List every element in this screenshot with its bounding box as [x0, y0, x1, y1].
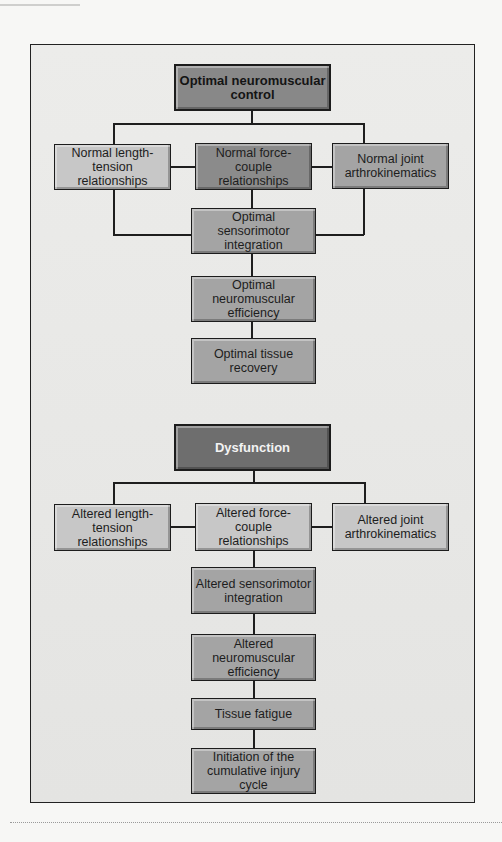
node-altered-joint-arthrokinematics: Altered joint arthrokinematics: [332, 503, 449, 551]
node-label: Altered joint arthrokinematics: [333, 513, 448, 541]
node-optimal-neuromuscular-control: Optimal neuromuscular control: [174, 64, 331, 111]
node-optimal-tissue-recovery: Optimal tissue recovery: [191, 338, 316, 384]
node-label: Normal joint arthrokinematics: [333, 152, 448, 180]
connector: [113, 123, 115, 144]
node-label: Optimal neuromuscular efficiency: [192, 278, 315, 320]
connector: [113, 190, 115, 235]
connector: [113, 123, 364, 125]
node-label: Optimal sensorimotor integration: [192, 210, 315, 252]
connector: [312, 166, 332, 168]
connector: [253, 681, 255, 699]
node-optimal-neuromuscular-efficiency: Optimal neuromuscular efficiency: [191, 276, 316, 322]
connector: [253, 551, 255, 568]
node-altered-length-tension: Altered length-tension relationships: [54, 504, 171, 551]
node-label: Altered sensorimotor integration: [192, 577, 315, 605]
connector: [363, 189, 365, 235]
connector: [113, 482, 365, 484]
connector: [113, 234, 191, 236]
node-altered-sensorimotor-integration: Altered sensorimotor integration: [191, 567, 316, 614]
node-label: Altered length-tension relationships: [55, 507, 170, 549]
node-label: Optimal tissue recovery: [192, 347, 315, 375]
connector: [251, 190, 253, 208]
node-initiation-cumulative-injury-cycle: Initiation of the cumulative injury cycl…: [191, 748, 316, 794]
node-label: Normal force-couple relationships: [196, 146, 311, 188]
node-label: Altered force-couple relationships: [196, 506, 311, 548]
node-optimal-sensorimotor-integration: Optimal sensorimotor integration: [191, 208, 316, 254]
node-label: Initiation of the cumulative injury cycl…: [192, 750, 315, 792]
node-normal-force-couple: Normal force-couple relationships: [195, 143, 312, 190]
connector: [171, 166, 195, 168]
node-tissue-fatigue: Tissue fatigue: [191, 698, 316, 730]
connector: [113, 482, 115, 504]
node-altered-neuromuscular-efficiency: Altered neuromuscular efficiency: [191, 634, 316, 681]
connector: [251, 322, 253, 339]
node-normal-joint-arthrokinematics: Normal joint arthrokinematics: [332, 143, 449, 189]
node-label: Optimal neuromuscular control: [176, 74, 329, 102]
node-label: Tissue fatigue: [212, 707, 295, 721]
connector: [251, 254, 253, 277]
header-rule: [0, 4, 80, 6]
connector: [363, 123, 365, 143]
node-label: Altered neuromuscular efficiency: [192, 637, 315, 679]
connector: [364, 482, 366, 504]
connector: [171, 526, 195, 528]
connector: [253, 730, 255, 749]
connector: [312, 526, 332, 528]
node-dysfunction: Dysfunction: [174, 424, 331, 471]
node-normal-length-tension: Normal length-tension relationships: [54, 144, 171, 190]
connector: [315, 234, 364, 236]
node-label: Normal length-tension relationships: [55, 146, 170, 188]
node-label: Dysfunction: [212, 441, 293, 455]
connector: [253, 614, 255, 634]
bottom-rule: [10, 822, 502, 823]
node-altered-force-couple: Altered force-couple relationships: [195, 503, 312, 551]
